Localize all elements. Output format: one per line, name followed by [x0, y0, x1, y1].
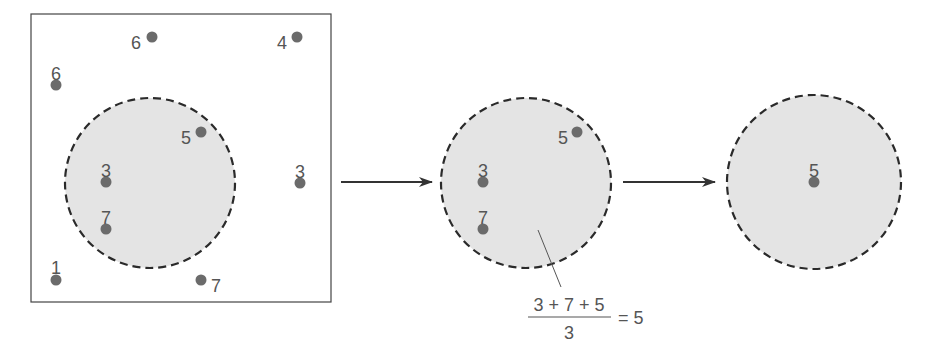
data-point	[572, 127, 583, 138]
point-value-label: 5	[181, 128, 191, 148]
point-group: 5	[809, 161, 820, 188]
neighborhood-circle	[65, 98, 235, 268]
point-value-label: 4	[277, 33, 287, 53]
data-point	[196, 127, 207, 138]
panel-selected-points: 537 3 + 7 + 5 3 = 5	[441, 98, 644, 343]
point-value-label: 3	[101, 161, 111, 181]
point-value-label: 5	[809, 161, 819, 181]
point-value-label: 5	[558, 128, 568, 148]
mean-formula: 3 + 7 + 5 3 = 5	[528, 295, 644, 343]
point-value-label: 7	[478, 208, 488, 228]
formula-result: = 5	[618, 308, 644, 328]
neighborhood-circle	[441, 98, 611, 268]
point-value-label: 3	[478, 161, 488, 181]
point-value-label: 7	[101, 208, 111, 228]
formula-numerator: 3 + 7 + 5	[533, 295, 604, 315]
data-point	[147, 32, 158, 43]
panel-input-points: 646533717	[31, 14, 331, 302]
data-point	[196, 275, 207, 286]
panel-output-value: 5	[727, 95, 901, 269]
formula-denominator: 3	[564, 323, 574, 343]
point-value-label: 7	[211, 276, 221, 296]
focal-mean-diagram: 646533717 537 3 + 7 + 5 3 = 5 5	[0, 0, 930, 356]
data-point	[292, 32, 303, 43]
point-value-label: 1	[51, 258, 61, 278]
point-value-label: 3	[295, 162, 305, 182]
point-value-label: 6	[131, 33, 141, 53]
point-value-label: 6	[51, 64, 61, 84]
